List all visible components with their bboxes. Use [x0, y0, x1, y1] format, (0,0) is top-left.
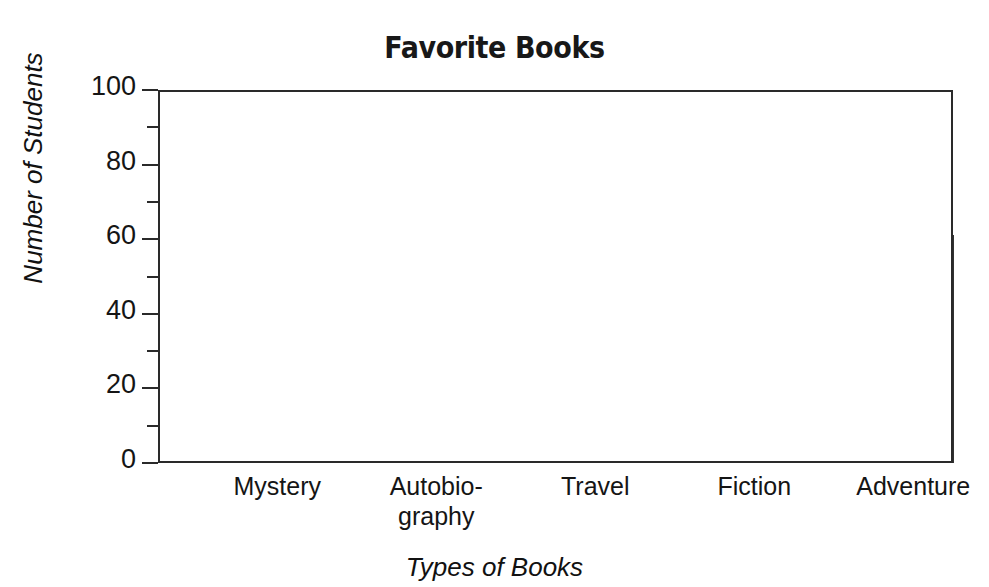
- x-tick-label-line1: Fiction: [664, 471, 844, 501]
- y-tick-major-0: [142, 462, 158, 464]
- plot-frame-border: [158, 90, 953, 463]
- y-tick-label-100: 100: [91, 71, 136, 102]
- y-tick-minor-50: [147, 276, 158, 278]
- y-tick-label-0: 0: [121, 444, 136, 475]
- plot-area: [158, 90, 953, 463]
- x-tick-label-1: Mystery: [187, 471, 367, 501]
- y-tick-label-40: 40: [106, 295, 136, 326]
- x-tick-label-line1: Autobio-: [346, 471, 526, 501]
- chart-title: Favorite Books: [0, 30, 989, 65]
- x-tick-label-line1: Mystery: [187, 471, 367, 501]
- y-tick-label-80: 80: [106, 146, 136, 177]
- y-tick-major-40: [142, 313, 158, 315]
- y-tick-minor-90: [147, 126, 158, 128]
- x-axis-title: Types of Books: [0, 552, 989, 583]
- x-tick-label-4: Fiction: [664, 471, 844, 501]
- y-tick-major-60: [142, 238, 158, 240]
- y-tick-major-20: [142, 387, 158, 389]
- x-tick-label-line1: Travel: [505, 471, 685, 501]
- y-tick-label-60: 60: [106, 220, 136, 251]
- x-tick-label-line1: Adventure: [823, 471, 989, 501]
- y-axis-title: Number of Students: [18, 52, 49, 283]
- x-tick-label-2: Autobio-graphy: [346, 471, 526, 531]
- x-tick-label-line2: graphy: [346, 501, 526, 531]
- y-tick-minor-10: [147, 425, 158, 427]
- y-tick-minor-30: [147, 350, 158, 352]
- x-tick-label-3: Travel: [505, 471, 685, 501]
- y-tick-minor-70: [147, 201, 158, 203]
- y-tick-major-100: [142, 89, 158, 91]
- bar-chart-figure: Favorite Books Number of Students Types …: [0, 0, 989, 587]
- x-tick-label-5: Adventure: [823, 471, 989, 501]
- y-tick-major-80: [142, 164, 158, 166]
- y-tick-label-20: 20: [106, 369, 136, 400]
- y-axis-title-container: Number of Students: [13, 8, 53, 328]
